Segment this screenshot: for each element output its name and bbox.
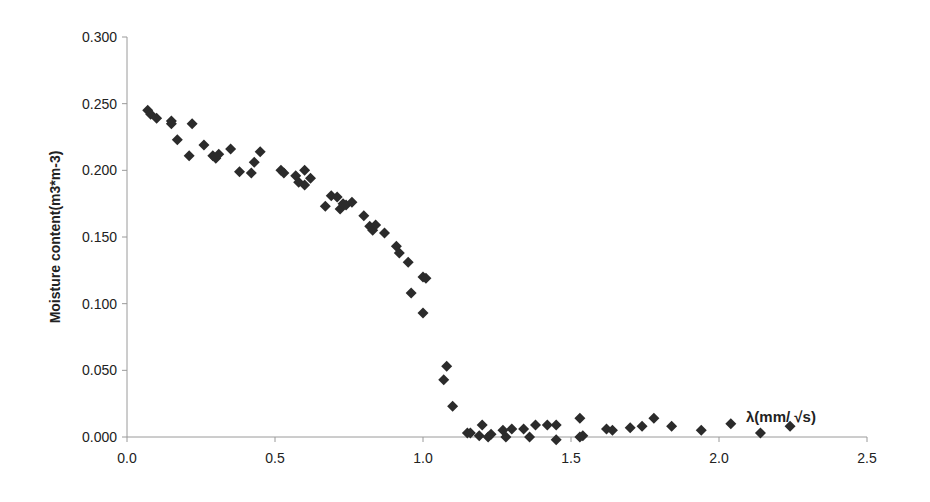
data-point-diamond — [530, 420, 541, 431]
data-point-diamond — [320, 201, 331, 212]
data-point-diamond — [506, 424, 517, 435]
data-point-diamond — [648, 413, 659, 424]
data-point-diamond — [551, 434, 562, 445]
y-tick-label: 0.100 — [82, 296, 117, 312]
data-point-diamond — [225, 144, 236, 155]
data-point-diamond — [234, 166, 245, 177]
data-point-diamond — [379, 228, 390, 239]
data-point-diamond — [666, 421, 677, 432]
data-point-diamond — [172, 134, 183, 145]
data-point-diamond — [625, 422, 636, 433]
y-tick-label: 0.050 — [82, 362, 117, 378]
data-point-diamond — [637, 421, 648, 432]
data-point-diamond — [184, 150, 195, 161]
axis-labels: Moisture content(m3*m-3) λ(mm/ √s) — [47, 151, 816, 425]
data-point-diamond — [574, 413, 585, 424]
data-point-diamond — [696, 425, 707, 436]
data-point-diamond — [441, 361, 452, 372]
y-axis-label: Moisture content(m3*m-3) — [47, 151, 63, 324]
data-point-diamond — [187, 118, 198, 129]
data-point-diamond — [447, 401, 458, 412]
data-point-diamond — [255, 146, 266, 157]
y-tick-label: 0.150 — [82, 229, 117, 245]
data-point-diamond — [518, 424, 529, 435]
y-tick-label: 0.000 — [82, 429, 117, 445]
data-point-diamond — [403, 257, 414, 268]
data-point-diamond — [246, 168, 257, 179]
data-point-diamond — [406, 288, 417, 299]
data-point-diamond — [198, 140, 209, 151]
data-point-diamond — [474, 430, 485, 441]
x-tick-label: 0.5 — [265, 450, 285, 466]
data-point-diamond — [358, 210, 369, 221]
x-tick-label: 1.0 — [413, 450, 433, 466]
x-tick-label: 0.0 — [117, 450, 137, 466]
data-point-diamond — [477, 420, 488, 431]
data-point-diamond — [249, 157, 260, 168]
y-tick-label: 0.200 — [82, 162, 117, 178]
data-point-diamond — [725, 418, 736, 429]
data-point-diamond — [524, 432, 535, 443]
x-axis-annotation: λ(mm/ √s) — [746, 408, 816, 425]
axes: 0.0000.0500.1000.1500.2000.2500.3000.00.… — [82, 29, 877, 466]
y-tick-label: 0.250 — [82, 96, 117, 112]
x-tick-label: 2.0 — [709, 450, 729, 466]
data-point-diamond — [299, 165, 310, 176]
x-tick-label: 1.5 — [561, 450, 581, 466]
data-point-diamond — [551, 420, 562, 431]
y-tick-label: 0.300 — [82, 29, 117, 45]
data-point-diamond — [418, 308, 429, 319]
scatter-chart: 0.0000.0500.1000.1500.2000.2500.3000.00.… — [0, 0, 930, 502]
data-point-diamond — [438, 374, 449, 385]
data-points — [142, 105, 795, 445]
x-tick-label: 2.5 — [857, 450, 877, 466]
